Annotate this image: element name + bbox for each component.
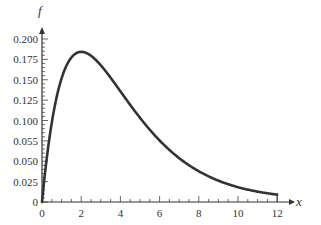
y-axis-label: f (38, 3, 44, 18)
y-tick-label: 0.055 (13, 135, 38, 147)
y-tick-label: 0.050 (13, 155, 38, 167)
density-curve (42, 52, 277, 202)
x-tick-label: 12 (272, 207, 283, 219)
y-tick-label: 0.025 (13, 176, 38, 188)
x-tick-label: 6 (157, 207, 163, 219)
x-tick-label: 10 (233, 207, 245, 219)
y-axis-arrow-icon (39, 27, 45, 34)
density-chart: 02468101200.0250.0500.0550.1000.1250.150… (0, 0, 321, 225)
y-tick-label: 0.150 (13, 74, 38, 86)
ticks (42, 39, 277, 202)
x-tick-label: 8 (196, 207, 202, 219)
y-tick-label: 0.200 (13, 33, 38, 45)
x-axis-arrow-icon (289, 199, 295, 205)
x-tick-label: 2 (78, 207, 84, 219)
y-tick-label: 0 (33, 196, 39, 208)
x-tick-label: 0 (39, 207, 45, 219)
y-tick-label: 0.175 (13, 53, 38, 65)
x-tick-label: 4 (118, 207, 124, 219)
x-axis-label: x (295, 194, 302, 209)
y-tick-label: 0.125 (13, 94, 38, 106)
y-tick-label: 0.100 (13, 115, 38, 127)
